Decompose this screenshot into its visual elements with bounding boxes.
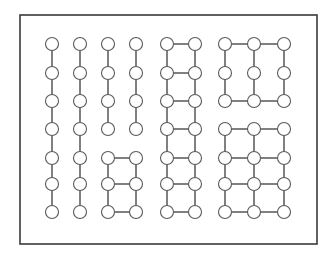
graph-node (74, 67, 87, 80)
graph-node (189, 123, 202, 136)
component-ladder-2x3-nodes (102, 152, 143, 219)
graph-node (74, 95, 87, 108)
graph-node (46, 95, 59, 108)
graph-node (219, 152, 232, 165)
graph-node (161, 152, 174, 165)
graph-node (74, 206, 87, 219)
graph-node (46, 38, 59, 51)
graph-node (102, 67, 115, 80)
graph-node (248, 38, 261, 51)
graph-node (130, 67, 143, 80)
graph-node (278, 95, 291, 108)
graph-node (74, 123, 87, 136)
graph-node (278, 67, 291, 80)
graph-node (161, 95, 174, 108)
graph-node (219, 206, 232, 219)
component-grid-3x3-open-nodes (219, 38, 291, 108)
graph-node (102, 152, 115, 165)
graph-node (189, 178, 202, 191)
graph-node (219, 123, 232, 136)
graph-node (130, 152, 143, 165)
graph-node (102, 178, 115, 191)
graph-node (219, 95, 232, 108)
graph-node (219, 38, 232, 51)
graph-node (130, 38, 143, 51)
graph-node (46, 206, 59, 219)
graph-node (130, 123, 143, 136)
graph-node (278, 178, 291, 191)
graph-node (189, 95, 202, 108)
graph-node (278, 206, 291, 219)
graph-node (130, 95, 143, 108)
graph-node (189, 152, 202, 165)
graph-node (130, 206, 143, 219)
graph-node (102, 123, 115, 136)
graph-node (161, 178, 174, 191)
graph-node (278, 38, 291, 51)
graph-node (248, 123, 261, 136)
graph-node (189, 67, 202, 80)
graph-node (248, 206, 261, 219)
graph-node (219, 178, 232, 191)
graph-node (74, 178, 87, 191)
graph-node (189, 38, 202, 51)
graph-node (74, 38, 87, 51)
component-grid-3x4-edges (225, 129, 284, 212)
graph-node (161, 123, 174, 136)
graph-node (248, 95, 261, 108)
graph-node (278, 123, 291, 136)
graph-node (248, 67, 261, 80)
graph-node (278, 152, 291, 165)
graph-node (46, 152, 59, 165)
graph-node (74, 152, 87, 165)
graph-node (248, 152, 261, 165)
graph-diagram (0, 0, 336, 255)
graph-node (102, 38, 115, 51)
graph-node (161, 206, 174, 219)
graph-node (102, 95, 115, 108)
graph-node (102, 206, 115, 219)
graph-node (219, 67, 232, 80)
graph-node (46, 123, 59, 136)
graph-node (161, 38, 174, 51)
graph-node (248, 178, 261, 191)
graph-node (161, 67, 174, 80)
graph-node (46, 67, 59, 80)
graph-node (46, 178, 59, 191)
graph-node (130, 178, 143, 191)
graph-node (189, 206, 202, 219)
